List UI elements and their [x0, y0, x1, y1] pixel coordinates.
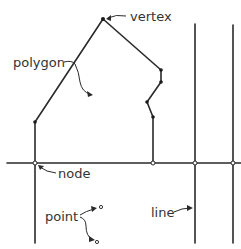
node-arrow: [40, 167, 56, 173]
vertex: [159, 68, 163, 72]
vertex: [151, 115, 155, 119]
point-arrowhead-2-icon: [89, 236, 95, 242]
node: [231, 161, 235, 165]
vertex: [159, 80, 163, 84]
vertex-label: vertex: [130, 9, 172, 24]
line-arrowhead-icon: [187, 205, 193, 211]
point-arrowhead-1-icon: [91, 206, 97, 212]
polygon-outline: [35, 19, 161, 163]
line-label: line: [151, 205, 174, 220]
node-label: node: [58, 166, 90, 181]
node: [193, 161, 197, 165]
node: [33, 161, 37, 165]
point: [99, 205, 102, 208]
point-arrow-2: [80, 217, 92, 239]
polygon-arrowhead-icon: [87, 91, 93, 97]
vertex: [145, 100, 149, 104]
point: [95, 240, 98, 243]
polygon-label: polygon: [13, 55, 65, 70]
polygon-arrow: [64, 61, 90, 94]
vertex: [33, 120, 37, 124]
vertex-arrowhead-icon: [106, 15, 111, 21]
point-label: point: [45, 209, 78, 224]
node: [151, 161, 155, 165]
vertex-top: [101, 17, 105, 21]
gis-vector-diagram: vertex polygon node point line: [0, 0, 241, 249]
